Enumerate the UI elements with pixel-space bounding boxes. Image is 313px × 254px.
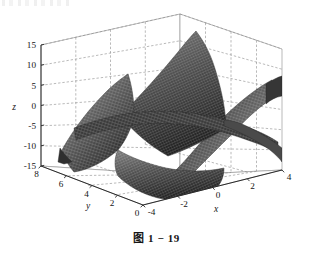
x-tick-0 <box>213 188 215 190</box>
y-tick-6 <box>64 176 66 178</box>
z-tick-label: 10 <box>27 60 37 70</box>
x-tick-2 <box>247 179 249 181</box>
surface-plot-canvas: 15 10 5 0 -5 -10 -15 8 6 4 2 0 -4 -2 0 2… <box>0 0 313 254</box>
x-axis-label: x <box>213 204 219 214</box>
x-tick-label: -4 <box>148 207 156 217</box>
x-tick-neg4 <box>143 205 145 207</box>
z-tick-label: 0 <box>31 101 36 111</box>
figure-container: 15 10 5 0 -5 -10 -15 8 6 4 2 0 -4 -2 0 2… <box>0 0 313 254</box>
y-axis-label: y <box>85 201 91 211</box>
z-tick-labels: 15 10 5 0 -5 -10 -15 <box>24 40 37 171</box>
figure-caption: 图 1 − 19 <box>0 229 313 245</box>
z-tick-label: 15 <box>27 40 37 50</box>
y-tick-label: 4 <box>84 189 89 199</box>
z-tick-label: -5 <box>28 121 36 131</box>
y-tick-label: 6 <box>59 179 64 189</box>
x-tick-label: -2 <box>180 199 188 209</box>
x-tick-label: 0 <box>216 190 221 200</box>
x-tick-label: 4 <box>287 172 292 182</box>
y-tick-label: 8 <box>34 169 39 179</box>
y-tick-label: 0 <box>135 208 140 218</box>
z-tick-label: 5 <box>31 81 36 91</box>
y-tick-8 <box>39 166 41 168</box>
y-tick-4 <box>90 186 92 188</box>
y-tick-2 <box>115 195 117 197</box>
z-tick-label: -10 <box>24 141 37 151</box>
y-tick-label: 2 <box>110 198 115 208</box>
x-tick-4 <box>282 170 284 172</box>
z-axis-label: z <box>11 102 16 112</box>
y-tick-0 <box>141 205 143 207</box>
x-tick-label: 2 <box>250 181 255 191</box>
